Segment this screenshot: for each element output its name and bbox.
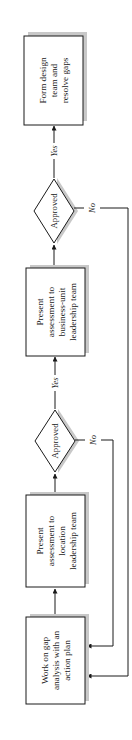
edge-approved2-yes-to-form-design: Yes [49,126,59,178]
diamond-label: Approved [50,423,60,459]
process-box-gap-analysis: Work on gap analysis with an action plan [26,614,89,704]
process-box-form-design-team: Form design team and resolve gaps [24,32,87,125]
process-box-present-location: Present assessment to location leadershi… [26,492,89,587]
decision-diamond-approved-business-unit: Approved [34,178,78,244]
edge-label-yes: Yes [49,145,59,157]
decision-diamond-approved-location: Approved [35,409,79,473]
box-label-line: leadership team [68,283,78,341]
box-label-line: resolve gaps [60,57,70,103]
box-label-line: Present [35,298,45,325]
box-label-line: action plan [62,640,72,681]
box-label-line: analysis with an [51,630,61,690]
box-label-line: location [57,526,67,556]
process-box-present-business-unit: Present assessment to business-unit lead… [26,265,89,356]
edge-label-yes: Yes [50,377,60,389]
edge-label-no: No [87,203,97,214]
diamond-label: Approved [49,193,59,229]
box-label-line: team and [49,63,59,97]
edge-approved1-yes-to-business-unit: Yes [50,357,60,409]
box-label-line: business-unit [57,287,67,336]
box-label-line: leadership team [68,512,78,570]
box-label-line: Work on gap [40,636,50,684]
flowchart: Form design team and resolve gaps Yes Ap… [0,0,132,740]
box-label-line: assessment to [46,286,56,337]
box-label-line: Present [35,527,45,554]
box-label-line: Form design [38,57,48,104]
box-label-line: assessment to [46,515,56,566]
edge-label-no: No [88,435,98,446]
